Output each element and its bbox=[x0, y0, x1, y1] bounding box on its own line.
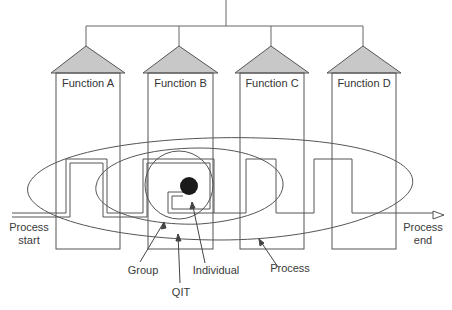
function-c-label: Function C bbox=[240, 77, 304, 90]
process-start-line1: Process bbox=[4, 221, 54, 234]
roof-icon bbox=[143, 46, 218, 73]
process-end-label: Process end bbox=[398, 221, 448, 247]
function-a-label: Function A bbox=[56, 77, 120, 90]
process-end-line1: Process bbox=[398, 221, 448, 234]
process-scope-ellipse bbox=[28, 138, 413, 240]
function-d-label: Function D bbox=[332, 77, 396, 90]
group-pointer-arrow bbox=[140, 222, 164, 262]
individual-dot bbox=[180, 177, 198, 195]
hierarchy-connector bbox=[86, 0, 363, 46]
process-label: Process bbox=[262, 262, 318, 275]
individual-pointer-arrow bbox=[192, 202, 205, 263]
group-label: Group bbox=[118, 264, 168, 277]
process-start-label: Process start bbox=[4, 221, 54, 247]
arrow-head-icon bbox=[433, 211, 444, 219]
arrow-head-icon bbox=[176, 234, 181, 241]
individual-label: Individual bbox=[186, 264, 246, 277]
roof-icon bbox=[327, 46, 401, 73]
process-flow-line bbox=[12, 159, 444, 219]
arrow-head-icon bbox=[190, 202, 195, 209]
qit-label: QIT bbox=[163, 286, 199, 299]
roof-icon bbox=[235, 46, 309, 73]
process-end-line2: end bbox=[398, 234, 448, 247]
process-start-line2: start bbox=[4, 234, 54, 247]
function-b-label: Function B bbox=[148, 77, 213, 90]
roof-icon bbox=[51, 46, 125, 73]
